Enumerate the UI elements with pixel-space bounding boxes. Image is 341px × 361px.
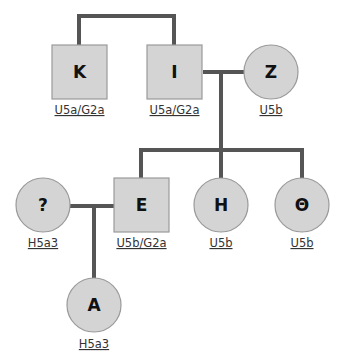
individual-label: ? [38, 195, 48, 215]
individual-label: Θ [295, 195, 309, 215]
individual-h: H U5b [194, 178, 248, 250]
haplogroup-label: U5a/G2a [55, 103, 105, 117]
haplogroup-label: U5b [209, 236, 232, 250]
individual-k: K U5a/G2a [52, 45, 107, 117]
individual-label: E [136, 195, 148, 215]
individual-label: H [214, 195, 228, 215]
pedigree-diagram: K U5a/G2a I U5a/G2a Z U5b ? H5a3 E U5b/G… [0, 0, 341, 361]
haplogroup-label: U5b/G2a [116, 236, 166, 250]
haplogroup-label: U5b [290, 236, 313, 250]
sibling-line-k-i [79, 16, 174, 45]
individual-i: I U5a/G2a [147, 45, 202, 117]
individual-label: K [73, 62, 87, 82]
individual-label: A [87, 295, 101, 315]
individual-e: E U5b/G2a [114, 178, 169, 250]
individual-theta: Θ U5b [275, 178, 329, 250]
haplogroup-label: H5a3 [28, 236, 58, 250]
haplogroup-label: U5b [259, 103, 282, 117]
individual-label: Z [265, 62, 277, 82]
individual-a: A H5a3 [67, 278, 121, 351]
individual-label: I [171, 62, 177, 82]
haplogroup-label: H5a3 [79, 337, 109, 351]
haplogroup-label: U5a/G2a [150, 103, 200, 117]
individual-z: Z U5b [244, 45, 298, 117]
individual-unknown: ? H5a3 [16, 178, 70, 250]
